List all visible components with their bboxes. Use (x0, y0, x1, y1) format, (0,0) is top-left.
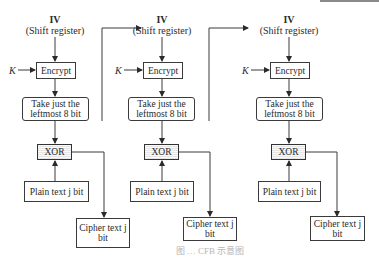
xor-box-3: XOR (271, 144, 306, 160)
shift-register-label-2: (Shift register) (112, 26, 212, 36)
ciphertext-box-3: Cipher text j bit (310, 216, 365, 241)
plaintext-box-3: Plain text j bit (258, 181, 321, 202)
encrypt-box-1: Encrypt (36, 62, 76, 79)
encrypt-box-2: Encrypt (143, 62, 183, 79)
select-bits-line2: leftmost 8 bit (30, 109, 81, 119)
ciphertext-line2: bit (98, 233, 108, 243)
key-label-1: K (9, 65, 16, 76)
iv-label-3: IV (269, 15, 309, 25)
ciphertext-box-1: Cipher text j bit (76, 218, 130, 248)
plaintext-box-1: Plain text j bit (24, 181, 89, 202)
xor-box-1: XOR (37, 144, 72, 160)
select-bits-box-1: Take just the leftmost 8 bit (22, 97, 89, 121)
shift-register-label-3: (Shift register) (239, 26, 339, 36)
select-bits-line2: leftmost 8 bit (136, 109, 187, 119)
ciphertext-line2: bit (205, 229, 215, 239)
shift-register-label-1: (Shift register) (5, 26, 105, 36)
ciphertext-line1: Cipher text j (186, 219, 234, 229)
ciphertext-box-2: Cipher text j bit (183, 217, 237, 241)
select-bits-box-3: Take just the leftmost 8 bit (256, 97, 323, 121)
ciphertext-line1: Cipher text j (79, 223, 127, 233)
iv-label-1: IV (35, 15, 75, 25)
select-bits-box-2: Take just the leftmost 8 bit (128, 97, 195, 121)
select-bits-line1: Take just the (31, 99, 79, 109)
xor-box-2: XOR (144, 144, 179, 160)
encrypt-box-3: Encrypt (270, 62, 310, 79)
figure-caption: 图 … CFB 示意图 (140, 244, 280, 257)
select-bits-line2: leftmost 8 bit (264, 109, 315, 119)
ciphertext-line2: bit (332, 229, 342, 239)
plaintext-box-2: Plain text j bit (130, 181, 194, 202)
iv-label-2: IV (142, 15, 182, 25)
key-label-3: K (242, 65, 249, 76)
select-bits-line1: Take just the (265, 99, 313, 109)
ciphertext-line1: Cipher text j (314, 219, 362, 229)
key-label-2: K (115, 65, 122, 76)
select-bits-line1: Take just the (137, 99, 185, 109)
